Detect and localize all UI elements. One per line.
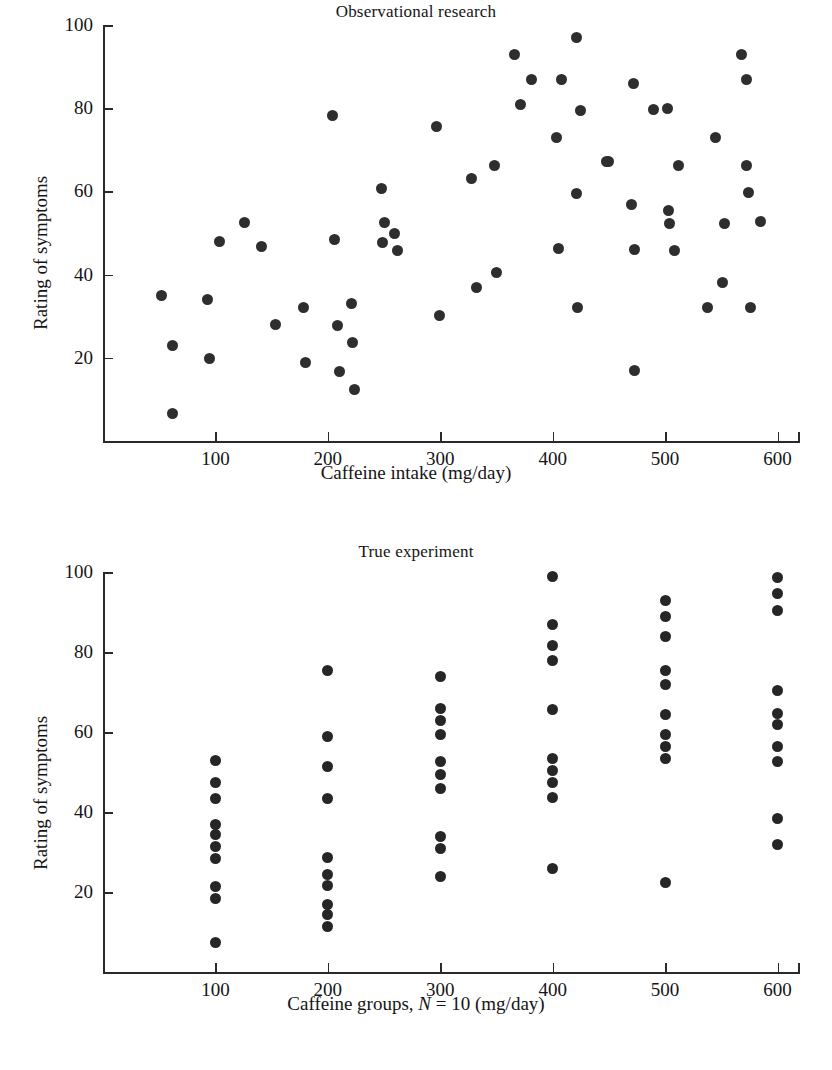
data-point bbox=[547, 704, 558, 715]
data-point bbox=[741, 74, 752, 85]
x-axis-tick bbox=[778, 963, 780, 972]
x-axis-tick bbox=[328, 963, 330, 972]
data-point bbox=[349, 384, 360, 395]
x-axis-title-italic-n: N bbox=[418, 993, 431, 1014]
data-point bbox=[322, 880, 333, 891]
data-point bbox=[167, 340, 178, 351]
x-axis-line bbox=[103, 972, 800, 974]
y-axis-tick-label: 80 bbox=[41, 97, 93, 119]
y-axis-tick-label: 100 bbox=[41, 14, 93, 36]
data-point bbox=[660, 877, 671, 888]
data-point bbox=[322, 869, 333, 880]
data-point bbox=[626, 199, 637, 210]
data-point bbox=[664, 218, 675, 229]
data-point bbox=[435, 843, 446, 854]
x-axis-tick bbox=[215, 432, 217, 441]
x-axis-tick bbox=[553, 432, 555, 441]
data-point bbox=[736, 49, 747, 60]
data-point bbox=[210, 937, 221, 948]
data-point bbox=[660, 729, 671, 740]
data-point bbox=[210, 777, 221, 788]
data-point bbox=[322, 793, 333, 804]
data-point bbox=[434, 310, 445, 321]
data-point bbox=[772, 588, 783, 599]
data-point bbox=[547, 792, 558, 803]
data-point bbox=[509, 49, 520, 60]
data-point bbox=[298, 302, 309, 313]
data-point bbox=[435, 715, 446, 726]
y-axis-tick bbox=[104, 275, 113, 277]
data-point bbox=[322, 921, 333, 932]
data-point bbox=[717, 277, 728, 288]
plot-area-experiment: 10020030040050060020406080100Rating of s… bbox=[0, 520, 832, 1070]
data-point bbox=[327, 110, 338, 121]
data-point bbox=[662, 103, 673, 114]
data-point bbox=[466, 173, 477, 184]
y-axis-tick bbox=[104, 108, 113, 110]
y-axis-tick bbox=[104, 892, 113, 894]
chart-observational-research: Observational research 10020030040050060… bbox=[0, 0, 832, 500]
data-point bbox=[741, 160, 752, 171]
data-point bbox=[719, 218, 730, 229]
data-point bbox=[772, 708, 783, 719]
data-point bbox=[660, 753, 671, 764]
data-point bbox=[547, 655, 558, 666]
x-axis-tick bbox=[328, 432, 330, 441]
data-point bbox=[435, 783, 446, 794]
x-axis-tick bbox=[440, 432, 442, 441]
data-point bbox=[491, 267, 502, 278]
data-point bbox=[660, 595, 671, 606]
data-point bbox=[204, 353, 215, 364]
data-point bbox=[322, 665, 333, 676]
data-point bbox=[772, 741, 783, 752]
x-axis-tick bbox=[778, 432, 780, 441]
data-point bbox=[772, 605, 783, 616]
data-point bbox=[435, 769, 446, 780]
data-point bbox=[322, 761, 333, 772]
data-point bbox=[377, 237, 388, 248]
data-point bbox=[526, 74, 537, 85]
data-point bbox=[673, 160, 684, 171]
data-point bbox=[551, 132, 562, 143]
data-point bbox=[210, 853, 221, 864]
data-point bbox=[435, 703, 446, 714]
data-point bbox=[669, 245, 680, 256]
data-point bbox=[575, 105, 586, 116]
data-point bbox=[256, 241, 267, 252]
data-point bbox=[376, 183, 387, 194]
data-point bbox=[471, 282, 482, 293]
data-point bbox=[772, 756, 783, 767]
data-point bbox=[167, 408, 178, 419]
data-point bbox=[629, 244, 640, 255]
plot-area-observational: 10020030040050060020406080100Rating of s… bbox=[0, 0, 832, 500]
data-point bbox=[210, 841, 221, 852]
y-axis-tick bbox=[104, 191, 113, 193]
data-point bbox=[210, 755, 221, 766]
data-point bbox=[435, 729, 446, 740]
data-point bbox=[435, 831, 446, 842]
data-point bbox=[300, 357, 311, 368]
x-axis-tick bbox=[665, 963, 667, 972]
data-point bbox=[660, 631, 671, 642]
x-axis-end-cap bbox=[798, 963, 800, 972]
x-axis-tick bbox=[665, 432, 667, 441]
x-axis-tick bbox=[553, 963, 555, 972]
x-axis-line bbox=[103, 441, 800, 443]
data-point bbox=[772, 813, 783, 824]
data-point bbox=[556, 74, 567, 85]
data-point bbox=[547, 777, 558, 788]
data-point bbox=[214, 236, 225, 247]
data-point bbox=[347, 337, 358, 348]
data-point bbox=[489, 160, 500, 171]
data-point bbox=[334, 366, 345, 377]
data-point bbox=[547, 863, 558, 874]
data-point bbox=[389, 228, 400, 239]
chart-true-experiment: True experiment 100200300400500600204060… bbox=[0, 520, 832, 1070]
data-point bbox=[547, 571, 558, 582]
data-point bbox=[322, 731, 333, 742]
data-point bbox=[660, 665, 671, 676]
data-point bbox=[202, 294, 213, 305]
data-point bbox=[210, 881, 221, 892]
data-point bbox=[332, 320, 343, 331]
x-axis-tick bbox=[215, 963, 217, 972]
